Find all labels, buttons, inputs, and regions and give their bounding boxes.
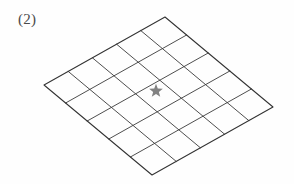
grid-line-col-1 [141,31,249,121]
grid-line-row-3 [109,71,230,139]
grid-line-col-2 [117,44,225,134]
grid-lines-group [66,31,252,162]
star-icon [149,84,163,97]
star-icon [149,84,163,97]
grid-line-row-2 [87,53,208,121]
grid-line-row-1 [66,35,187,103]
grid-line-col-4 [68,71,176,161]
grid-line-row-4 [130,89,251,157]
isometric-grid-figure [0,0,294,184]
grid-line-col-3 [92,58,200,148]
figure-panel: (2) [0,0,294,184]
